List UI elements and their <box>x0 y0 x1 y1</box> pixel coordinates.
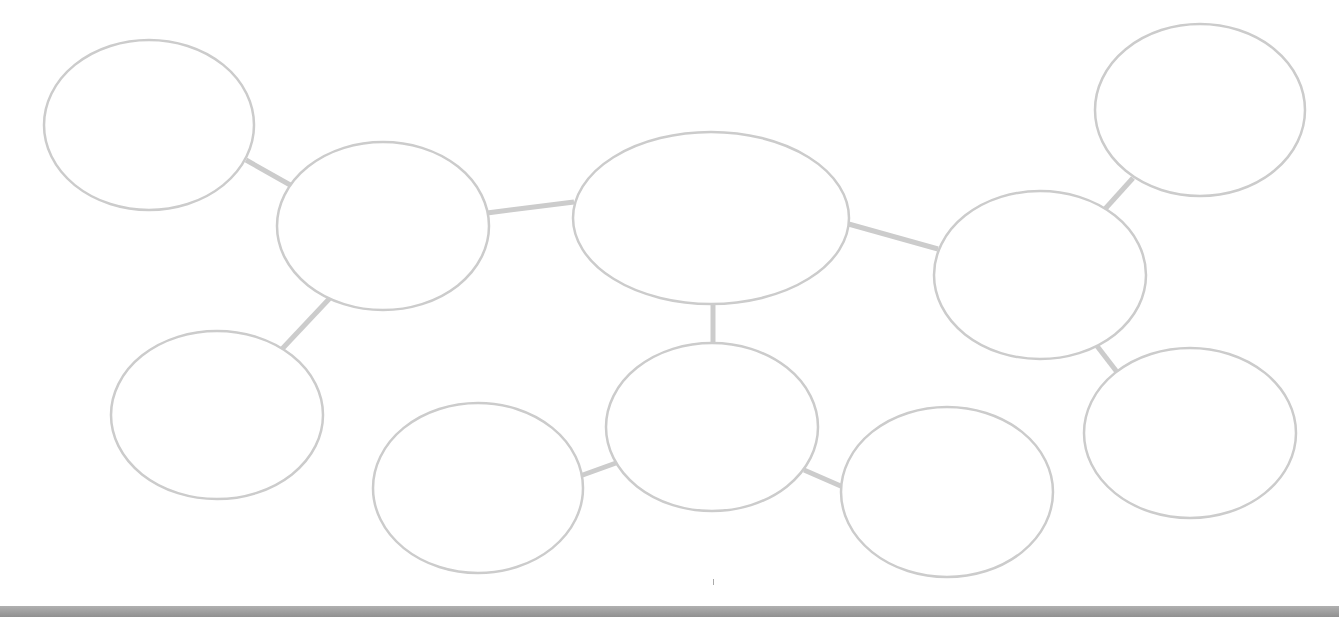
connector-n4-n5 <box>1105 178 1133 209</box>
nodes <box>44 24 1305 577</box>
connector-n1-n2 <box>246 160 292 186</box>
ellipse-n8 <box>373 403 583 573</box>
ellipse-n9 <box>841 407 1053 577</box>
ellipse-n4 <box>934 191 1146 359</box>
connector-n2-center <box>487 202 574 213</box>
ellipse-n6 <box>111 331 323 499</box>
ellipse-n2 <box>277 142 489 310</box>
connector-center-n4 <box>845 223 938 249</box>
ellipse-n1 <box>44 40 254 210</box>
bubble-map-diagram <box>0 0 1339 617</box>
node-n8 <box>373 403 583 573</box>
node-n9 <box>841 407 1053 577</box>
connector-n2-n6 <box>282 298 330 349</box>
ellipse-center <box>573 132 849 304</box>
ellipse-n10 <box>1084 348 1296 518</box>
node-n7 <box>606 343 818 511</box>
node-n10 <box>1084 348 1296 518</box>
connector-n7-n8 <box>580 463 616 476</box>
ellipse-n5 <box>1095 24 1305 196</box>
tick-mark <box>713 579 714 585</box>
connector-n7-n9 <box>804 470 843 487</box>
connector-n4-n10 <box>1097 346 1117 372</box>
node-n6 <box>111 331 323 499</box>
node-n4 <box>934 191 1146 359</box>
ellipse-n7 <box>606 343 818 511</box>
node-n5 <box>1095 24 1305 196</box>
node-center <box>573 132 849 304</box>
node-n1 <box>44 40 254 210</box>
bottom-bar <box>0 606 1339 617</box>
node-n2 <box>277 142 489 310</box>
